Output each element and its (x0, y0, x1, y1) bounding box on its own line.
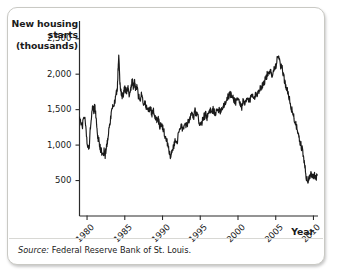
y-axis-tick-label: 500 (32, 175, 72, 185)
x-axis-title: Year (274, 226, 314, 237)
source-text: Federal Reserve Bank of St. Louis. (52, 245, 191, 255)
source-label: Source: (18, 245, 49, 255)
source-note: Source: Federal Reserve Bank of St. Loui… (18, 245, 191, 255)
y-axis-tick-label: 1,000 (32, 140, 72, 150)
data-series-group (80, 55, 318, 183)
chart-plot-area: New housing starts (thousands) 5001,0001… (8, 8, 326, 266)
y-axis-tick-label: 1,500 (32, 104, 72, 114)
y-axis-tick-label: 2,000 (32, 69, 72, 79)
housing-starts-line (80, 55, 318, 183)
source-divider (9, 238, 323, 239)
figure-card: New housing starts (thousands) 5001,0001… (7, 7, 325, 265)
y-axis-tick-label: 2,500 (32, 33, 72, 43)
